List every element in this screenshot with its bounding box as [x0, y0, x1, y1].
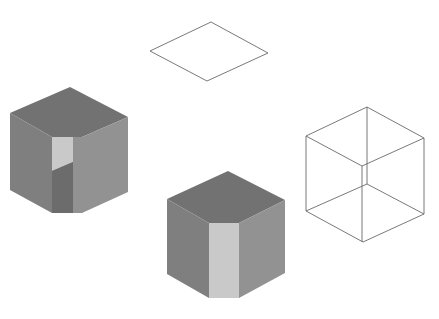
wireframe-cube	[306, 107, 424, 242]
rhombus-outline	[150, 22, 268, 81]
solid-cube-with-strip	[167, 171, 285, 298]
cube2-light-strip	[209, 223, 239, 298]
wire-cube-outline	[306, 107, 424, 242]
isometric-figures-diagram	[0, 0, 439, 319]
wire-cube-back-bottom-edges	[306, 184, 424, 214]
wire-cube-front-top-edges	[306, 136, 424, 166]
solid-cube-with-notch	[10, 87, 128, 213]
